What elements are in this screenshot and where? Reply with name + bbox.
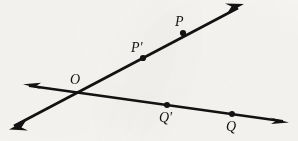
geometry-figure: O P' P Q' Q (0, 0, 298, 141)
label-q: Q (226, 120, 236, 134)
point-marker-q-prime (164, 102, 170, 108)
line-oq-group (23, 83, 289, 124)
point-marker-q (229, 111, 235, 117)
line-op (14, 8, 238, 126)
line-oq (29, 86, 283, 122)
arrowhead-op-start (9, 121, 28, 131)
label-p: P (175, 15, 184, 29)
label-origin: O (70, 73, 80, 87)
figure-canvas (0, 0, 298, 141)
point-marker-p-prime (140, 55, 146, 61)
point-marker-p (180, 30, 186, 36)
label-q-prime: Q' (159, 111, 172, 125)
label-p-prime: P' (131, 41, 143, 55)
